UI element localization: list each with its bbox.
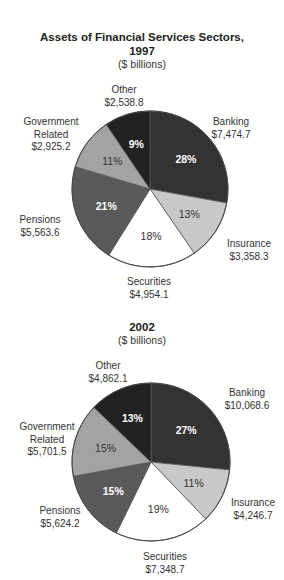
chart1-label-pensions: Pensions $5,563.6 bbox=[10, 214, 70, 239]
label-name: Pensions bbox=[30, 505, 90, 518]
pie-percent-pensions: 15% bbox=[103, 485, 125, 497]
chart2-subtitle: ($ billions) bbox=[0, 334, 284, 347]
chart2-label-pensions: Pensions $5,624.2 bbox=[30, 505, 90, 530]
pie-percent-banking: 27% bbox=[176, 424, 198, 436]
pie-percent-insurance: 11% bbox=[183, 477, 203, 489]
pie-percent-other: 13% bbox=[122, 412, 144, 424]
chart2-title: 2002 bbox=[0, 320, 284, 334]
label-name: Government bbox=[10, 421, 84, 434]
chart1-label-other: Other $2,538.8 bbox=[94, 84, 154, 109]
pie-percent-banking: 28% bbox=[175, 153, 197, 165]
label-value: $5,624.2 bbox=[30, 518, 90, 531]
chart2-label-securities: Securities $7,348.7 bbox=[130, 551, 200, 576]
pie-percent-securities: 19% bbox=[148, 503, 169, 515]
label-value: $5,563.6 bbox=[10, 227, 70, 240]
label-name: Other bbox=[78, 360, 138, 373]
label-name: Securities bbox=[130, 551, 200, 564]
label-name: Securities bbox=[114, 276, 184, 289]
chart2-label-other: Other $4,862.1 bbox=[78, 360, 138, 385]
label-value: $7,348.7 bbox=[130, 564, 200, 577]
chart2-label-banking: Banking $10,068.6 bbox=[212, 387, 282, 412]
label-value: $4,246.7 bbox=[222, 510, 284, 523]
label-value: $2,925.2 bbox=[14, 141, 88, 154]
pie-percent-pensions: 21% bbox=[96, 200, 118, 212]
label-value: $3,358.3 bbox=[214, 251, 284, 264]
label-value: $7,474.7 bbox=[196, 129, 266, 142]
label-name: Other bbox=[94, 84, 154, 97]
pie-chart-2002: 27%11%19%15%15%13% bbox=[72, 383, 230, 541]
pie-percent-government-related: 11% bbox=[102, 155, 122, 167]
chart1-label-banking: Banking $7,474.7 bbox=[196, 116, 266, 141]
chart2-label-insurance: Insurance $4,246.7 bbox=[222, 497, 284, 522]
chart1-label-securities: Securities $4,954.1 bbox=[114, 276, 184, 301]
label-name: Pensions bbox=[10, 214, 70, 227]
label-name: Related bbox=[14, 129, 88, 142]
label-name: Government bbox=[14, 116, 88, 129]
label-value: $4,954.1 bbox=[114, 289, 184, 302]
chart2-label-government-related: Government Related $5,701.5 bbox=[10, 421, 84, 459]
label-value: $10,068.6 bbox=[212, 400, 282, 413]
chart1-label-government-related: Government Related $2,925.2 bbox=[14, 116, 88, 154]
label-name: Banking bbox=[196, 116, 266, 129]
label-name: Insurance bbox=[214, 238, 284, 251]
label-value: $5,701.5 bbox=[10, 446, 84, 459]
pie-percent-other: 9% bbox=[129, 138, 145, 150]
label-name: Insurance bbox=[222, 497, 284, 510]
label-name: Banking bbox=[212, 387, 282, 400]
label-value: $2,538.8 bbox=[94, 97, 154, 110]
pie-percent-securities: 18% bbox=[141, 230, 162, 242]
chart1-label-insurance: Insurance $3,358.3 bbox=[214, 238, 284, 263]
label-name: Related bbox=[10, 434, 84, 447]
pie-percent-government-related: 15% bbox=[95, 442, 116, 454]
label-value: $4,862.1 bbox=[78, 373, 138, 386]
pie-percent-insurance: 13% bbox=[179, 208, 200, 220]
